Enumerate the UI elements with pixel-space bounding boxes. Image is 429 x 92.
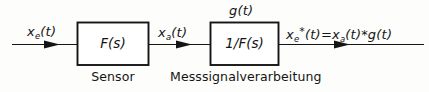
input-symbol: x (27, 24, 35, 39)
caption-signal-processing: Messsignalverarbeitung (170, 71, 320, 84)
label-impulse-response: g(t) (229, 4, 253, 17)
caption-sensor: Sensor (77, 71, 149, 84)
output-argument: (t) (305, 27, 321, 42)
arrowhead-middle (176, 41, 192, 49)
arrowhead-input (44, 41, 60, 49)
block-signal-processing-label: 1/F(s) (210, 37, 279, 51)
convolution-operator: * (361, 27, 368, 42)
label-input-signal: xe(t) (27, 25, 56, 41)
rhs-first-symbol: x (332, 27, 340, 42)
block-sensor-label: F(s) (77, 37, 149, 51)
label-output-equation: xe*(t)=xa(t)*g(t) (286, 26, 392, 44)
output-symbol: x (286, 27, 294, 42)
block-diagram: xe(t) F(s) xa(t) g(t) 1/F(s) xe*(t)=xa(t… (0, 0, 429, 92)
rhs-second-argument: (t) (376, 27, 392, 42)
equals-sign: = (321, 27, 332, 42)
label-middle-signal: xa(t) (158, 26, 187, 42)
rhs-first-argument: (t) (345, 27, 361, 42)
input-argument: (t) (40, 24, 56, 39)
middle-argument: (t) (171, 25, 187, 40)
middle-symbol: x (158, 25, 166, 40)
